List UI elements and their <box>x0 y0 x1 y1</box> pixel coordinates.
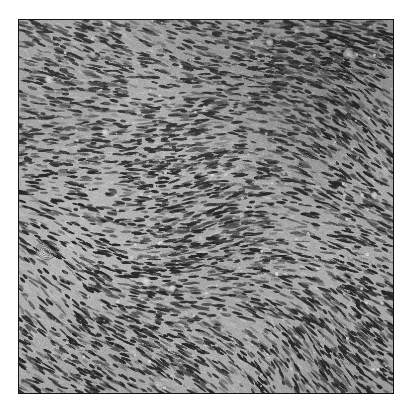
figure-root: Grayscale histopathology photomicrograph… <box>0 0 412 415</box>
histopathology-image <box>19 20 393 393</box>
micrograph-plate-border <box>18 19 394 394</box>
